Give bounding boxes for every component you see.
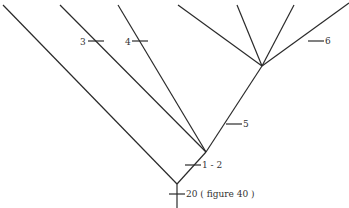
branches (3, 3, 349, 208)
branch-leaf-8 (262, 3, 349, 66)
branch-leaf-3 (60, 5, 206, 152)
label-char-1-2: 1 - 2 (202, 160, 222, 170)
branch-leaf-4 (118, 5, 206, 152)
label-char-5: 5 (243, 119, 249, 129)
branch-a-to-b (206, 66, 262, 152)
label-char-6: 6 (325, 36, 331, 46)
label-char-4: 4 (125, 37, 131, 47)
label-char-3: 3 (80, 37, 86, 47)
cladogram: 20 ( figure 40 )1 - 25346 (0, 0, 349, 208)
character-ticks (88, 41, 324, 194)
label-char-20: 20 ( figure 40 ) (186, 189, 255, 199)
branch-leaf-7 (262, 5, 294, 66)
character-labels: 20 ( figure 40 )1 - 25346 (80, 36, 331, 199)
branch-leaf-1 (3, 5, 177, 184)
